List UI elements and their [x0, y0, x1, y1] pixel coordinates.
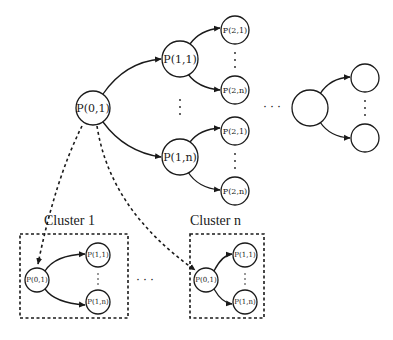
cluster-1-title: Cluster 1	[44, 213, 95, 228]
edge-p11-to-p21	[190, 28, 220, 44]
node-p21-lower: P(2,1)	[221, 117, 249, 145]
edge-root-to-p1n	[103, 122, 161, 157]
node-root-label: P(0,1)	[76, 102, 109, 115]
node-generic-root	[292, 90, 328, 126]
cluster-n-p11-label: P(1,1)	[234, 251, 256, 259]
node-p2n-lower: P(2,n)	[221, 177, 249, 205]
cluster-n-p11-node: P(1,1)	[233, 243, 257, 267]
vertical-ellipsis-level1	[179, 99, 181, 115]
cluster-n-edge-to-p11	[214, 254, 232, 271]
cluster-1-edge-to-p11	[45, 254, 85, 271]
cluster-1-p1n-node: P(1,n)	[86, 290, 110, 314]
cluster-1-root-label: P(0,1)	[26, 276, 48, 284]
cluster-n-root-label: P(0,1)	[195, 276, 217, 284]
node-p2n-upper: P(2,n)	[221, 76, 249, 104]
dashed-edge-to-cluster-1	[38, 126, 82, 264]
cluster-1-p11-label: P(1,1)	[87, 251, 109, 259]
cluster-tree-diagram: P(0,1) P(1,1) P(1,n) P(2,1) P(2,n) P(2,1…	[0, 0, 393, 340]
cluster-1-p11-node: P(1,1)	[86, 243, 110, 267]
node-generic-child-1	[351, 64, 379, 92]
node-p11-label: P(1,1)	[163, 53, 196, 66]
cluster-n-title: Cluster n	[190, 213, 241, 228]
between-clusters-dots: · · ·	[136, 274, 153, 287]
cluster-n-p1n-node: P(1,n)	[233, 290, 257, 314]
edge-generic-to-child2	[320, 122, 350, 138]
edge-p11-to-p2n	[188, 74, 220, 90]
node-p21-upper: P(2,1)	[221, 16, 249, 44]
vertical-ellipsis-generic	[364, 100, 366, 116]
edge-root-to-p11	[103, 59, 161, 94]
edge-p1n-to-p21	[190, 128, 220, 142]
cluster-n: Cluster n P(0,1) P(1,1) P(1,n)	[190, 213, 264, 318]
edge-p1n-to-p2n	[188, 172, 220, 190]
cluster-1-p1n-label: P(1,n)	[87, 298, 109, 306]
node-generic-child-2	[351, 124, 379, 152]
vertical-ellipsis-level2-upper	[234, 52, 236, 68]
cluster-n-root-node: P(0,1)	[194, 268, 218, 292]
node-p1n-label: P(1,n)	[163, 151, 197, 164]
edge-generic-to-child1	[320, 77, 350, 94]
horizontal-continuation-dots: · · ·	[263, 101, 280, 114]
node-root: P(0,1)	[76, 91, 110, 125]
cluster-n-vertical-ellipsis	[244, 273, 246, 285]
node-p2n-upper-label: P(2,n)	[223, 86, 247, 95]
cluster-n-p1n-label: P(1,n)	[234, 298, 256, 306]
node-p1n: P(1,n)	[162, 139, 198, 175]
vertical-ellipsis-level2-lower	[234, 153, 236, 169]
cluster-n-edge-to-p1n	[214, 289, 232, 304]
node-p2n-lower-label: P(2,n)	[223, 187, 247, 196]
cluster-1-edge-to-p1n	[45, 289, 85, 305]
node-p21-upper-label: P(2,1)	[223, 26, 247, 35]
cluster-1: Cluster 1 P(0,1) P(1,1) P(1,n)	[20, 213, 128, 318]
cluster-1-root-node: P(0,1)	[25, 268, 49, 292]
cluster-1-vertical-ellipsis	[97, 273, 99, 285]
node-p11: P(1,1)	[162, 41, 198, 77]
node-p21-lower-label: P(2,1)	[223, 127, 247, 136]
